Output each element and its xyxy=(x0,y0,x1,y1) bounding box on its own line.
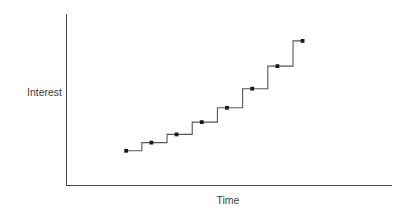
data-point-marker xyxy=(175,133,179,137)
data-point-marker xyxy=(276,64,280,68)
data-point-marker xyxy=(200,120,204,124)
x-axis-label: Time xyxy=(217,194,240,206)
data-point-marker xyxy=(150,141,154,145)
data-point-marker xyxy=(225,106,229,110)
data-point-marker xyxy=(124,149,128,153)
y-axis-label: Interest xyxy=(27,86,62,98)
data-point-marker xyxy=(301,39,305,43)
data-point-marker xyxy=(250,87,254,91)
step-chart-figure: Interest Time xyxy=(0,0,414,218)
